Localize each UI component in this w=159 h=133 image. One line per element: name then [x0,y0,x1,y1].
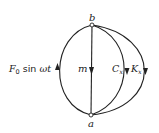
mass-label: m [78,63,87,74]
arrow-down-icon [125,68,130,75]
force-label: F0 sin ωt [8,63,51,76]
node-a-label: a [88,118,94,129]
node-b [90,23,94,27]
spring-label: Kx [130,63,142,76]
damper-label: Cx [112,63,123,76]
node-b-label: b [89,12,95,23]
arrow-down-icon [89,67,94,75]
network-diagram: b a F0 sin ωt m Cx Kx [0,0,159,133]
node-a [89,113,93,117]
